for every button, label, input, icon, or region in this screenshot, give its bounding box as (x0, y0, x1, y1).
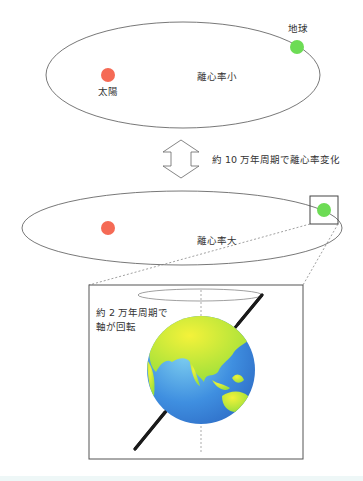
precession-label-line1: 約 2 万年周期で (96, 308, 168, 318)
sun-icon (101, 68, 115, 82)
orbit-small-eccentricity (46, 22, 320, 128)
globe-icon (147, 316, 255, 424)
earth-label: 地球 (288, 24, 308, 34)
small-eccentricity-label: 離心率小 (197, 72, 237, 82)
precession-label-line2: 軸が回転 (96, 322, 136, 332)
earth-dot-icon (290, 40, 304, 54)
earth-dot-icon (317, 203, 331, 217)
large-eccentricity-label: 離心率大 (197, 236, 237, 246)
eccentricity-cycle-label: 約 10 万年周期で離心率変化 (212, 155, 340, 165)
sun-icon (101, 221, 115, 235)
double-arrow-icon (163, 140, 199, 178)
diagram-canvas (0, 0, 363, 481)
sun-label: 太陽 (98, 87, 118, 97)
bottom-band (0, 476, 363, 481)
zoom-line-right (303, 224, 338, 285)
zoom-line-left (89, 224, 310, 285)
orbit-large-eccentricity (22, 191, 342, 265)
